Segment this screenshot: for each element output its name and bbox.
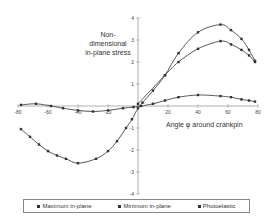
legend-item-minimum: Minimum in-plane — [118, 203, 170, 209]
data-point-marker — [248, 49, 250, 51]
data-point-marker — [219, 40, 221, 42]
y-axis-label-line-2: dimensional — [78, 39, 138, 48]
x-tick-label: 40 — [195, 109, 201, 115]
data-point-marker — [137, 103, 139, 105]
square-marker-icon — [198, 205, 201, 208]
data-point-marker — [77, 109, 79, 111]
data-point-marker — [35, 103, 37, 105]
data-point-marker — [240, 49, 242, 51]
legend-label: Photoelastic — [203, 203, 236, 209]
y-tick-label: 1 — [131, 81, 134, 87]
y-tick-label: -1 — [130, 125, 135, 131]
data-point-marker — [77, 162, 79, 164]
data-point-marker — [254, 61, 256, 63]
data-point-marker — [95, 158, 97, 160]
data-point-marker — [248, 99, 250, 101]
series-line-2 — [138, 41, 255, 104]
data-point-marker — [230, 43, 232, 45]
y-tick-label: -4 — [130, 191, 135, 197]
data-point-marker — [230, 29, 232, 31]
data-point-marker — [164, 99, 166, 101]
diamond-marker-icon — [37, 205, 40, 208]
y-axis-label: Non- dimensional in-plane stress — [78, 30, 138, 57]
legend: Maximum in-plane Minimum in-plane Photoe… — [23, 199, 250, 213]
data-point-marker — [219, 95, 221, 97]
data-point-marker — [230, 96, 232, 98]
x-tick-label: 60 — [225, 109, 231, 115]
data-point-marker — [20, 128, 22, 130]
data-point-marker — [47, 150, 49, 152]
data-point-marker — [65, 158, 67, 160]
square-marker-icon — [118, 205, 121, 208]
data-point-marker — [197, 31, 199, 33]
data-point-marker — [62, 107, 64, 109]
data-point-marker — [141, 102, 143, 104]
legend-item-photoelastic: Photoelastic — [198, 203, 236, 209]
data-point-marker — [240, 98, 242, 100]
data-point-marker — [177, 52, 179, 54]
legend-item-maximum: Maximum in-plane — [37, 203, 91, 209]
data-point-marker — [137, 107, 139, 109]
data-point-marker — [107, 109, 109, 111]
data-point-marker — [132, 106, 134, 108]
data-point-marker — [50, 105, 52, 107]
data-point-marker — [125, 127, 127, 129]
data-point-marker — [131, 118, 133, 120]
x-tick-label: 20 — [165, 109, 171, 115]
data-point-marker — [152, 103, 154, 105]
y-axis-label-line-1: Non- — [78, 30, 138, 39]
y-tick-label: 2 — [131, 59, 134, 65]
y-tick-label: -3 — [130, 169, 135, 175]
y-axis-label-line-3: in-plane stress — [78, 48, 138, 57]
x-tick-label: 80 — [255, 109, 261, 115]
x-tick-label: -80 — [14, 109, 21, 115]
data-point-marker — [254, 100, 256, 102]
data-point-marker — [56, 154, 58, 156]
data-point-marker — [122, 107, 124, 109]
data-point-marker — [20, 104, 22, 106]
data-point-marker — [152, 89, 154, 91]
x-tick-label: -60 — [44, 109, 51, 115]
y-tick-label: -2 — [130, 147, 135, 153]
data-point-marker — [197, 94, 199, 96]
data-point-marker — [177, 61, 179, 63]
data-point-marker — [92, 110, 94, 112]
data-point-marker — [29, 136, 31, 138]
data-point-marker — [197, 48, 199, 50]
data-point-marker — [116, 140, 118, 142]
data-point-marker — [248, 54, 250, 56]
legend-label: Maximum in-plane — [42, 203, 91, 209]
data-point-marker — [164, 74, 166, 76]
data-point-marker — [38, 143, 40, 145]
data-point-marker — [240, 38, 242, 40]
data-point-marker — [107, 150, 109, 152]
legend-label: Minimum in-plane — [123, 203, 170, 209]
data-point-marker — [219, 23, 221, 25]
data-point-marker — [177, 96, 179, 98]
data-point-marker — [140, 105, 142, 107]
y-tick-label: 4 — [131, 15, 134, 21]
x-axis-label: Angle φ around crankpin — [166, 121, 243, 128]
